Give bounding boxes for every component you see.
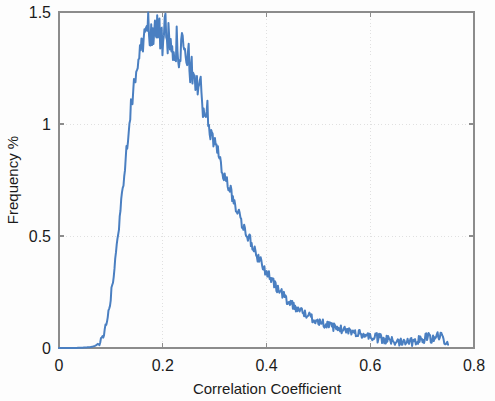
x-tick-label: 0 bbox=[55, 357, 64, 374]
y-tick-label: 0 bbox=[42, 340, 51, 357]
y-tick-label: 1 bbox=[42, 116, 51, 133]
y-tick-label: 1.5 bbox=[29, 4, 51, 21]
chart-figure: 00.20.40.60.8 00.511.5 Correlation Coeff… bbox=[0, 0, 495, 401]
x-tick-label: 0.2 bbox=[152, 357, 174, 374]
x-tick-label: 0.4 bbox=[255, 357, 277, 374]
correlation-coefficient-histogram-plot: 00.20.40.60.8 00.511.5 Correlation Coeff… bbox=[0, 0, 495, 401]
x-tick-label: 0.6 bbox=[359, 357, 381, 374]
x-tick-label: 0.8 bbox=[463, 357, 485, 374]
y-tick-label: 0.5 bbox=[29, 228, 51, 245]
x-axis-label: Correlation Coefficient bbox=[193, 380, 342, 397]
figure-background bbox=[0, 0, 495, 401]
y-axis-label: Frequency % bbox=[4, 136, 21, 224]
